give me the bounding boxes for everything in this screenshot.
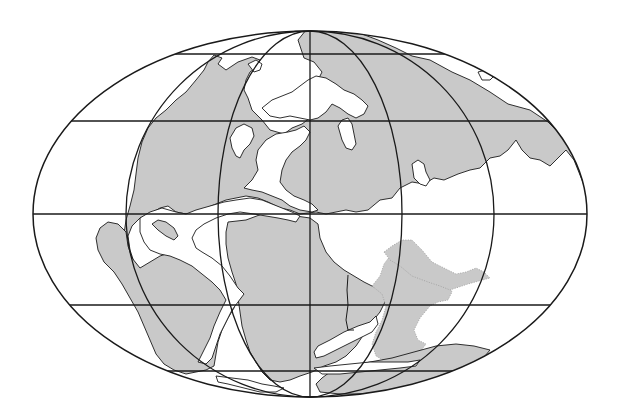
landmasses — [96, 26, 590, 394]
map-canvas — [0, 0, 620, 414]
africa-landmass — [226, 212, 386, 382]
paleogeographic-world-map: Mollweide (elliptical equal-area) Paleog… — [0, 0, 620, 414]
